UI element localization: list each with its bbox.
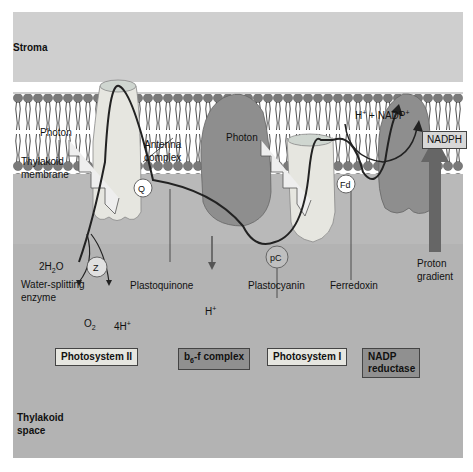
z-label: Z bbox=[93, 262, 99, 274]
water-enzyme-label-2: enzyme bbox=[21, 292, 56, 304]
photon-left-label: Photon bbox=[40, 127, 72, 139]
photosystem-ii-box: Photosystem II bbox=[55, 348, 138, 366]
pc-label: pC bbox=[270, 252, 282, 264]
photosystem-i-box: Photosystem I bbox=[267, 348, 347, 366]
diagram-frame: Stroma Photon Photon Antenna complex Thy… bbox=[13, 12, 463, 458]
h-plus-label: H+ bbox=[205, 303, 216, 318]
membrane-diagram bbox=[13, 12, 463, 458]
nadp-reductase-box: NADPreductase bbox=[362, 348, 420, 378]
b6f-complex-box: b6-f complex bbox=[178, 348, 250, 370]
nadph-box: NADPH bbox=[422, 131, 467, 149]
antenna-label-2: complex bbox=[144, 152, 181, 164]
four-h-label: 4H+ bbox=[114, 318, 131, 333]
b6f-complex-shape bbox=[201, 94, 271, 226]
antenna-label-1: Antenna bbox=[144, 139, 181, 151]
q-label: Q bbox=[138, 183, 145, 195]
thylakoid-space-label-2: space bbox=[17, 425, 45, 437]
membrane-label-1: Thylakoid bbox=[21, 156, 64, 168]
plastocyanin-label: Plastocyanin bbox=[248, 280, 305, 292]
ferredoxin-label: Ferredoxin bbox=[330, 280, 378, 292]
membrane-label-2: membrane bbox=[21, 169, 69, 181]
water-enzyme-label-1: Water-splitting bbox=[21, 279, 85, 291]
o2-label: O2 bbox=[84, 318, 96, 334]
proton-gradient-label-2: gradient bbox=[417, 271, 453, 283]
photon-right-label: Photon bbox=[226, 132, 258, 144]
fd-label: Fd bbox=[340, 179, 351, 191]
nadp-reactant-label: H+ + NADP+ bbox=[355, 107, 410, 122]
stroma-label: Stroma bbox=[13, 42, 47, 54]
thylakoid-space-label-1: Thylakoid bbox=[17, 412, 64, 424]
proton-gradient-label-1: Proton bbox=[417, 258, 446, 270]
water-reactant-label: 2H2O bbox=[39, 261, 63, 277]
plastoquinone-label: Plastoquinone bbox=[130, 280, 193, 292]
